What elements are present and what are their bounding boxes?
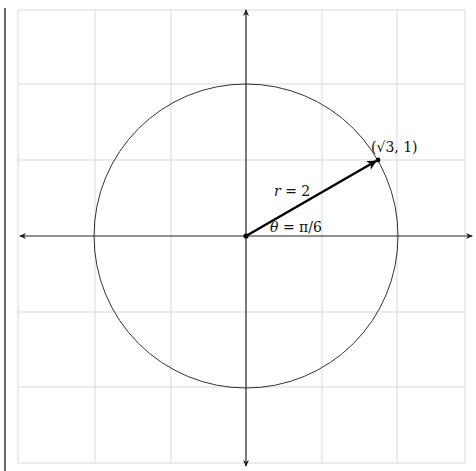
angle-eq: = π/6 xyxy=(278,219,322,235)
point-label: (√3, 1) xyxy=(371,139,418,155)
polar-diagram: (√3, 1) r = 2 θ = π/6 xyxy=(0,0,476,471)
angle-label: θ = π/6 xyxy=(270,219,322,235)
radius-label: r = 2 xyxy=(274,183,310,199)
point-dot xyxy=(376,158,381,163)
origin-dot xyxy=(243,233,248,238)
radius-eq: = 2 xyxy=(281,183,311,199)
